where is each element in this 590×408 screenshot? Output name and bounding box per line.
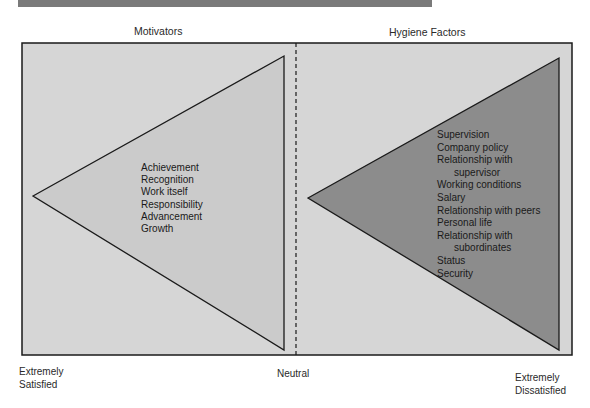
extremely-satisfied-label: Extremely Satisfied xyxy=(19,366,63,391)
scale-right-line2: Dissatisfied xyxy=(515,385,566,398)
hygiene-item: Relationship with xyxy=(437,154,540,167)
motivators-list: Achievement Recognition Work itself Resp… xyxy=(141,162,203,235)
neutral-label: Neutral xyxy=(277,368,309,381)
hygiene-item: Personal life xyxy=(437,217,540,230)
scale-left-line1: Extremely xyxy=(19,366,63,379)
hygiene-item: Supervision xyxy=(437,129,540,142)
hygiene-item: Status xyxy=(437,255,540,268)
motivators-heading: Motivators xyxy=(134,25,182,37)
hygiene-factors-heading: Hygiene Factors xyxy=(389,26,465,38)
hygiene-item: Salary xyxy=(437,192,540,205)
motivator-item: Advancement xyxy=(141,211,203,223)
motivator-item: Growth xyxy=(141,223,203,235)
hygiene-item: Working conditions xyxy=(437,179,540,192)
motivator-item: Responsibility xyxy=(141,199,203,211)
hygiene-item: Relationship with peers xyxy=(437,205,540,218)
hygiene-item: Company policy xyxy=(437,142,540,155)
scale-left-line2: Satisfied xyxy=(19,379,63,392)
hygiene-factors-list: Supervision Company policy Relationship … xyxy=(437,129,540,280)
hygiene-item: supervisor xyxy=(437,167,540,180)
motivator-item: Work itself xyxy=(141,186,203,198)
hygiene-item: subordinates xyxy=(437,242,540,255)
hygiene-item: Security xyxy=(437,268,540,281)
scale-right-line1: Extremely xyxy=(515,372,566,385)
motivator-item: Recognition xyxy=(141,174,203,186)
extremely-dissatisfied-label: Extremely Dissatisfied xyxy=(515,372,566,397)
motivator-item: Achievement xyxy=(141,162,203,174)
hygiene-item: Relationship with xyxy=(437,230,540,243)
